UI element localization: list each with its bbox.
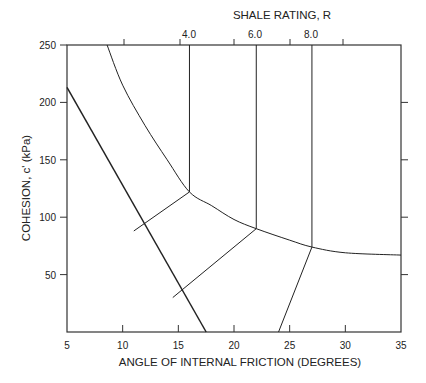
x-tick-label: 15 <box>173 340 185 351</box>
x-tick-label: 30 <box>340 340 352 351</box>
y-tick-label: 250 <box>39 40 56 51</box>
chart: 5101520253035501001502002504.06.08.0SHAL… <box>0 0 426 383</box>
y-tick-label: 150 <box>39 155 56 166</box>
y-tick-label: 50 <box>45 270 57 281</box>
x-tick-label: 25 <box>284 340 296 351</box>
top-tick-label: 4.0 <box>182 29 196 40</box>
series-line <box>107 45 401 255</box>
y-axis-title: COHESION, c' (kPa) <box>20 135 32 242</box>
x-tick-label: 10 <box>117 340 129 351</box>
series-line <box>279 247 312 332</box>
plot-area: 5101520253035501001502002504.06.08.0SHAL… <box>20 9 408 368</box>
series-line <box>134 192 190 231</box>
top-tick-label: 6.0 <box>248 29 262 40</box>
x-tick-label: 5 <box>64 340 70 351</box>
top-axis-title: SHALE RATING, R <box>233 9 331 21</box>
series-line <box>67 87 206 332</box>
y-tick-label: 200 <box>39 97 56 108</box>
x-axis-title: ANGLE OF INTERNAL FRICTION (DEGREES) <box>119 356 362 368</box>
plot-frame <box>67 45 401 332</box>
series-line <box>173 229 257 298</box>
x-tick-label: 35 <box>395 340 407 351</box>
x-tick-label: 20 <box>228 340 240 351</box>
top-tick-label: 8.0 <box>304 29 318 40</box>
y-tick-label: 100 <box>39 212 56 223</box>
